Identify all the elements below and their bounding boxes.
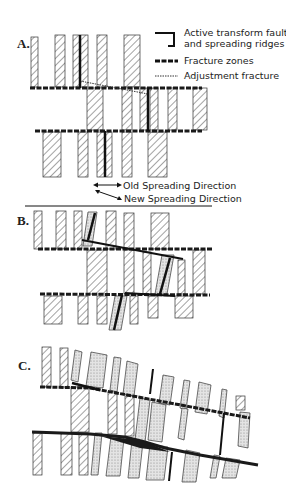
panel-label-c: C. xyxy=(18,358,31,373)
diagram-canvas: A. xyxy=(0,0,286,504)
magnetic-stripes-c xyxy=(33,347,250,482)
spreading-direction-key: Old Spreading Direction New Spreading Di… xyxy=(93,180,242,204)
ridge-c-middle xyxy=(220,413,224,455)
legend-label-fracture-zones: Fracture zones xyxy=(184,55,254,66)
ridge-c-upper xyxy=(150,369,153,394)
fracture-zone-b-lower xyxy=(40,294,210,295)
legend: Active transform faults and spreading ri… xyxy=(155,27,286,81)
new-spreading-direction-label: New Spreading Direction xyxy=(124,193,242,204)
legend-label-spreading-ridges: and spreading ridges xyxy=(184,38,284,49)
panel-c: C. xyxy=(18,347,258,482)
ridge-c-lower xyxy=(169,452,172,481)
panel-a: A. xyxy=(17,35,207,177)
magnetic-stripes-b xyxy=(34,211,205,330)
panel-b: B. xyxy=(17,211,212,330)
active-transform-fault-icon xyxy=(155,33,174,46)
legend-label-adjustment-fracture: Adjustment fracture xyxy=(184,70,279,81)
panel-label-a: A. xyxy=(17,36,30,51)
legend-label-active-transform: Active transform faults xyxy=(184,27,286,38)
old-spreading-direction-label: Old Spreading Direction xyxy=(123,180,236,191)
new-direction-arrow-icon xyxy=(97,191,120,199)
magnetic-stripes-a-upper xyxy=(31,35,140,87)
panel-label-b: B. xyxy=(17,213,29,228)
